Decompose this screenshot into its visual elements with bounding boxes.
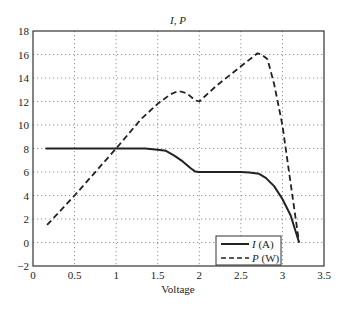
y-tick-label: 0 [24,237,30,249]
x-tick-label: 3 [280,269,286,281]
x-tick-label: 2 [197,269,203,281]
y-tick-label: 14 [18,72,30,84]
x-axis-ticks: 00.511.522.533.5 [30,269,331,281]
y-tick-label: 16 [18,49,30,61]
y-tick-label: 6 [24,166,30,178]
y-axis-ticks: −2024681012141618 [17,25,29,272]
legend-label-power: P (W) [251,252,280,265]
x-tick-label: 1.5 [151,269,165,281]
x-tick-label: 1 [113,269,119,281]
y-tick-label: 12 [18,96,29,108]
x-axis-label: Voltage [161,283,195,295]
x-tick-label: 2.5 [234,269,248,281]
y-tick-label: 10 [18,119,30,131]
y-tick-label: −2 [17,260,29,272]
x-tick-label: 3.5 [317,269,331,281]
x-tick-label: 0 [30,269,36,281]
x-tick-label: 0.5 [68,269,82,281]
chart-title: I, P [169,14,186,26]
y-tick-label: 8 [24,143,30,155]
y-tick-label: 18 [18,25,30,37]
y-tick-label: 2 [24,213,30,225]
chart: I, P −2024681012141618 00.511.522.533.5 … [0,0,345,312]
y-tick-label: 4 [24,190,30,202]
legend: I (A) P (W) [216,236,281,265]
plot-series [46,53,300,242]
legend-label-current: I (A) [251,238,274,251]
